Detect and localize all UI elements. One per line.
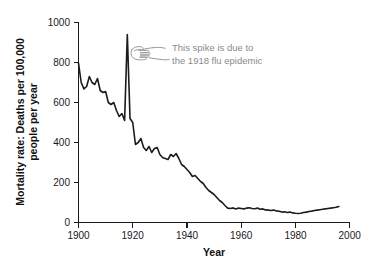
x-tick-label-2000: 2000 — [339, 230, 362, 241]
y-axis-title-line-1: Mortality rate: Deaths per 100,000 — [14, 38, 26, 206]
x-tick-label-1960: 1960 — [230, 230, 253, 241]
x-tick-label-1940: 1940 — [176, 230, 199, 241]
annotation-leader-bottom — [160, 59, 170, 60]
x-tick-label-1900: 1900 — [67, 230, 90, 241]
figure-container: 1000 800 600 400 200 0 1900 1920 1940 19… — [0, 0, 371, 267]
y-tick-label-200: 200 — [53, 177, 70, 188]
x-tick-label-1980: 1980 — [284, 230, 307, 241]
mortality-rate-line-chart: 1000 800 600 400 200 0 1900 1920 1940 19… — [0, 0, 371, 267]
y-tick-label-600: 600 — [53, 97, 70, 108]
y-tick-label-0: 0 — [64, 217, 70, 228]
y-axis-title-line-2: people per year — [27, 83, 39, 161]
x-axis-title: Year — [203, 246, 225, 258]
annotation-line-2: the 1918 flu epidemic — [172, 55, 263, 66]
y-tick-label-800: 800 — [53, 57, 70, 68]
annotation-line-1: This spike is due to — [172, 42, 253, 53]
x-tick-label-1920: 1920 — [122, 230, 145, 241]
y-tick-label-1000: 1000 — [48, 17, 71, 28]
y-tick-label-400: 400 — [53, 137, 70, 148]
chart-background — [0, 0, 371, 267]
